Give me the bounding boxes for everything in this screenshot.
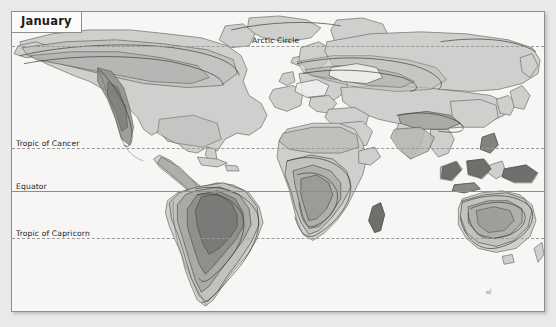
map-title: January (12, 12, 82, 33)
band-asia-south (391, 127, 435, 159)
artist-signature: sf (486, 288, 491, 295)
tropic-of-cancer-label: Tropic of Cancer (16, 139, 80, 148)
world-map-figure: Arctic Circle Tropic of Cancer Equator T… (0, 0, 556, 327)
tropic-of-cancer-line (12, 148, 544, 149)
map-layers (14, 16, 544, 306)
tropic-of-capricorn-label: Tropic of Capricorn (16, 229, 90, 238)
band-newguinea-core (502, 165, 537, 182)
new-zealand (534, 242, 544, 262)
tropic-of-capricorn-line (12, 238, 544, 239)
hispaniola (225, 165, 239, 171)
map-frame: Arctic Circle Tropic of Cancer Equator T… (11, 11, 545, 312)
tasmania (502, 254, 514, 264)
band-madagascar-core (369, 203, 385, 233)
arctic-circle-label: Arctic Circle (252, 36, 299, 45)
band-sumatra-core (441, 162, 461, 180)
band-philippines-core (480, 133, 498, 153)
indochina (430, 129, 454, 157)
caribbean-cuba (197, 157, 227, 167)
british-isles (279, 72, 295, 86)
equator-label: Equator (16, 182, 47, 191)
arctic-circle-line (12, 46, 544, 47)
equator-line (12, 191, 544, 192)
world-map-canvas (12, 12, 544, 311)
